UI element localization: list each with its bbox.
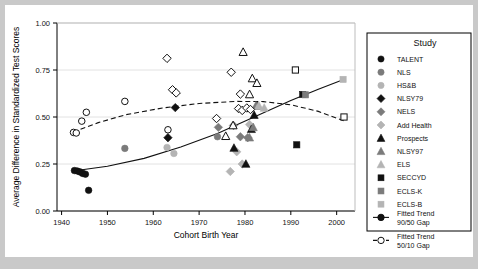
xtick-label: 2000	[328, 218, 345, 227]
xtick-label: 1990	[282, 218, 299, 227]
marker-circle	[378, 69, 384, 75]
marker-square	[302, 92, 308, 98]
marker-circle	[378, 56, 384, 62]
marker-circle	[82, 171, 89, 178]
xtick-label: 1960	[145, 218, 162, 227]
legend-marker-circle	[378, 214, 384, 220]
marker-circle	[171, 150, 178, 157]
legend-entry-label: NLS	[397, 69, 411, 76]
ytick-label: 0.75	[35, 66, 50, 75]
chart-figure: 0.000.250.500.751.0019401950196019701980…	[5, 5, 473, 257]
legend-entry-label: 50/10 Gap	[397, 242, 430, 250]
marker-square	[340, 76, 346, 82]
legend-marker-circle	[378, 237, 384, 243]
xtick-label: 1980	[237, 218, 254, 227]
marker-circle	[164, 144, 171, 151]
marker-circle	[378, 82, 384, 88]
marker-square	[378, 175, 384, 181]
legend-entry-label: NELS	[397, 108, 416, 115]
legend-entry-label: NLSY79	[397, 95, 423, 102]
marker-square	[292, 67, 298, 73]
xtick-label: 1950	[99, 218, 116, 227]
legend-entry-label: ECLS-K	[397, 188, 423, 195]
ytick-label: 0.25	[35, 160, 50, 169]
legend-title: Study	[413, 38, 437, 48]
marker-circle	[165, 127, 172, 134]
marker-square	[378, 201, 384, 207]
marker-circle	[85, 187, 92, 194]
legend-entry-label: Fitted Trend	[397, 210, 434, 217]
legend-entry-label: HS&B	[397, 82, 416, 89]
legend-entry-label: NLSY97	[397, 148, 423, 155]
scatter-plot-svg: 0.000.250.500.751.0019401950196019701980…	[5, 5, 473, 257]
ytick-label: 1.00	[35, 19, 50, 28]
marker-circle	[83, 109, 90, 116]
legend-entry-label: ELS	[397, 161, 411, 168]
xtick-label: 1940	[53, 218, 70, 227]
legend-entry-label: TALENT	[397, 56, 424, 63]
marker-square	[294, 142, 300, 148]
legend-entry-label: ECLS-B	[397, 201, 423, 208]
x-axis-title: Cohort Birth Year	[174, 230, 239, 240]
ytick-label: 0.50	[35, 113, 50, 122]
legend-entry-label: Add Health	[397, 122, 432, 129]
marker-square	[341, 114, 347, 120]
ytick-label: 0.00	[35, 207, 50, 216]
y-axis-title: Average Difference in Standardized Test …	[11, 27, 21, 208]
marker-circle	[122, 98, 129, 105]
marker-circle	[122, 145, 129, 152]
legend-entry-label: Fitted Trend	[397, 233, 434, 240]
marker-circle	[78, 118, 85, 125]
legend-entry-label: SECCYD	[397, 174, 426, 181]
legend-entry-label: Prospects	[397, 135, 429, 143]
marker-circle	[214, 133, 221, 140]
xtick-label: 1970	[191, 218, 208, 227]
marker-circle	[73, 130, 80, 137]
legend-entry-label: 90/50 Gap	[397, 219, 430, 227]
marker-square	[378, 188, 384, 194]
